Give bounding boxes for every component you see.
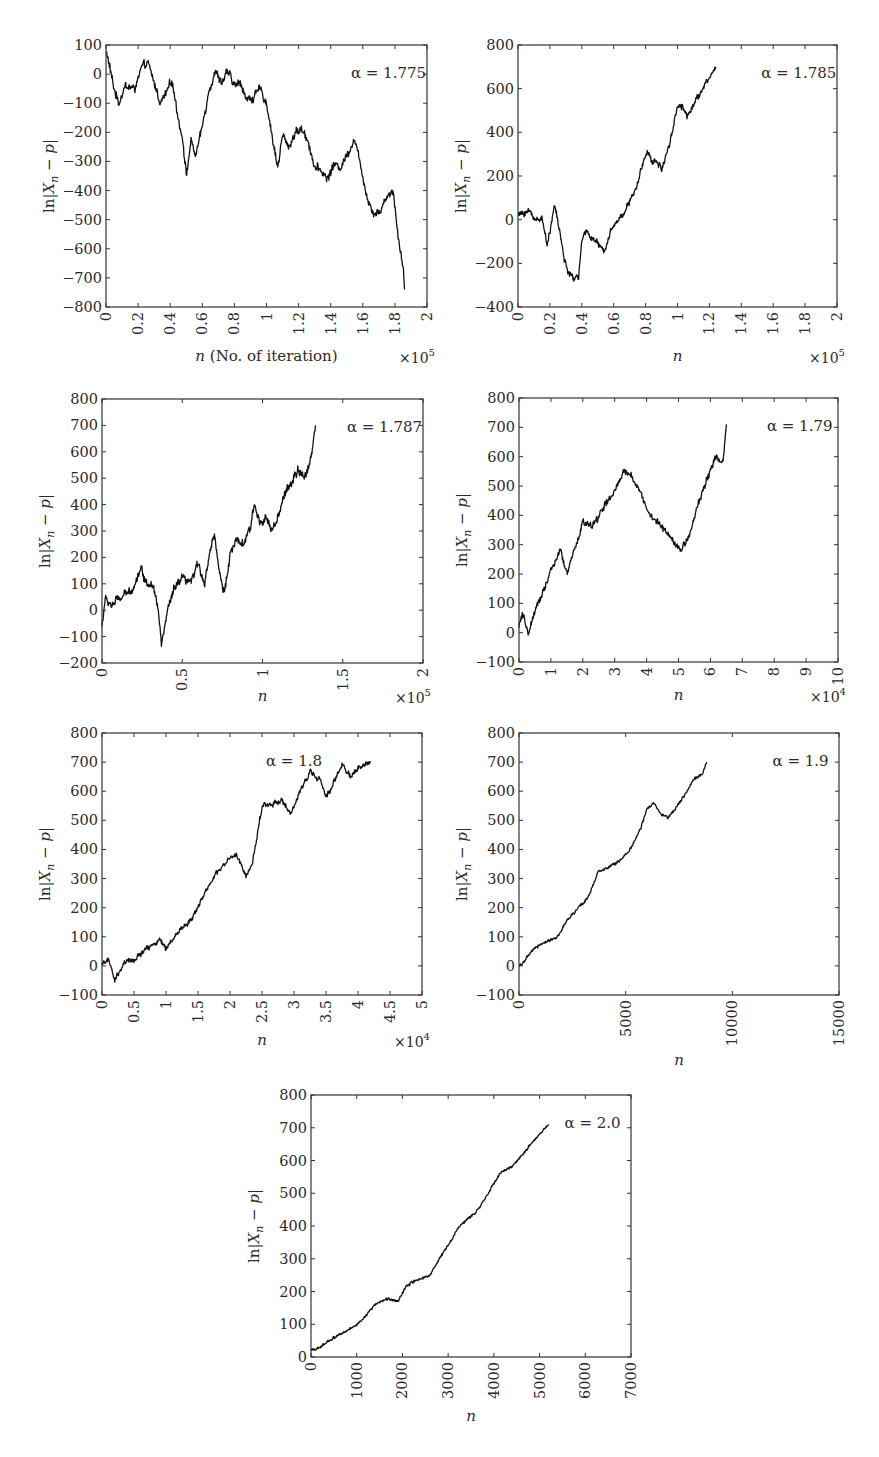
x-tick-label: 0.2: [130, 312, 146, 335]
x-tick-label: 0.4: [574, 312, 590, 335]
x-tick-label: 5000: [532, 1362, 548, 1399]
x-tick-label: 10: [830, 667, 846, 685]
x-axis-label: n: [673, 347, 683, 365]
y-tick-label: −100: [62, 95, 102, 111]
y-tick-label: 400: [70, 497, 98, 513]
y-axis-label: ln|Xn − p|: [36, 827, 57, 901]
y-tick-label: 700: [487, 419, 515, 435]
y-tick-label: 200: [487, 566, 515, 582]
x-tick-label: 2: [829, 312, 845, 321]
y-tick-label: −400: [474, 299, 514, 315]
y-tick-label: 500: [487, 478, 515, 494]
x-tick-label: 2: [415, 668, 431, 677]
x-tick-label: 0.6: [194, 312, 210, 335]
y-tick-label: 200: [279, 1284, 307, 1300]
y-tick-label: 600: [487, 449, 515, 465]
x-tick-label: 8: [766, 667, 782, 676]
x-tick-label: 0.8: [226, 312, 242, 335]
y-tick-label: 400: [70, 841, 98, 857]
x-tick-label: 0.2: [542, 312, 558, 335]
panel-alpha-1-79: −100010020030040050060070080001234567891…: [453, 390, 846, 705]
x-tick-label: 3: [286, 1000, 302, 1009]
x-tick-label: 2000: [394, 1362, 410, 1399]
y-tick-label: 800: [487, 390, 515, 406]
x-axis-label: n: [258, 687, 268, 705]
alpha-annotation: α = 1.9: [773, 752, 829, 770]
series-line: [518, 67, 716, 281]
x-tick-label: 1.6: [765, 312, 781, 335]
y-tick-label: −600: [62, 241, 102, 257]
y-tick-label: 400: [487, 841, 515, 857]
y-tick-label: 600: [487, 783, 515, 799]
x-tick-label: 1: [255, 668, 271, 677]
y-tick-label: −800: [62, 299, 102, 315]
x-tick-label: 7000: [623, 1362, 639, 1399]
x-tick-label: 7: [734, 667, 750, 676]
x-tick-label: 6000: [577, 1362, 593, 1399]
y-tick-label: 600: [70, 783, 98, 799]
x-axis-label: n: [674, 686, 684, 704]
series-line: [102, 425, 315, 646]
x-axis-label: n: [466, 1407, 476, 1425]
x-tick-label: 0: [94, 1000, 110, 1009]
series-line: [519, 762, 707, 966]
x-multiplier-label: ×105: [809, 347, 845, 366]
y-tick-label: 700: [70, 417, 98, 433]
y-tick-label: 600: [279, 1153, 307, 1169]
y-tick-label: 0: [505, 212, 514, 228]
y-tick-label: 300: [487, 871, 515, 887]
x-tick-label: 0: [511, 667, 527, 676]
x-tick-label: 2: [575, 667, 591, 676]
plot-frame: [102, 733, 422, 995]
series-line: [311, 1124, 549, 1350]
y-tick-label: −100: [475, 987, 515, 1003]
x-tick-label: 0.4: [162, 312, 178, 335]
y-tick-label: 100: [487, 595, 515, 611]
y-axis-label: ln|Xn − p|: [245, 1189, 266, 1263]
x-axis-label: n: [674, 1051, 684, 1069]
panel-alpha-1-775: −800−700−600−500−400−300−200−100010000.2…: [40, 37, 435, 366]
y-tick-label: 400: [279, 1218, 307, 1234]
x-tick-label: 0.6: [606, 312, 622, 335]
x-tick-label: 0: [303, 1362, 319, 1371]
y-tick-label: 300: [70, 871, 98, 887]
x-tick-label: 4.5: [382, 1000, 398, 1023]
y-tick-label: 500: [70, 812, 98, 828]
y-tick-label: 200: [70, 900, 98, 916]
x-multiplier-label: ×105: [399, 347, 435, 366]
x-tick-label: 1: [259, 312, 275, 321]
x-tick-label: 0: [94, 668, 110, 677]
x-multiplier-label: ×104: [810, 686, 846, 705]
y-tick-label: 700: [70, 754, 98, 770]
panel-alpha-1-9: −100010020030040050060070080005000100001…: [453, 725, 847, 1069]
y-tick-label: 800: [487, 725, 515, 741]
series-line: [106, 52, 405, 290]
x-tick-label: 4: [350, 1000, 366, 1009]
x-tick-label: 1.5: [335, 668, 351, 691]
y-tick-label: 0: [89, 602, 98, 618]
y-tick-label: −500: [62, 212, 102, 228]
y-tick-label: 200: [70, 549, 98, 565]
y-tick-label: 800: [279, 1087, 307, 1103]
y-tick-label: −200: [474, 255, 514, 271]
panel-alpha-1-787: −200−100010020030040050060070080000.511.…: [36, 391, 431, 706]
y-tick-label: 0: [506, 958, 515, 974]
x-tick-label: 1.8: [387, 312, 403, 335]
x-tick-label: 5: [414, 1000, 430, 1009]
y-tick-label: 600: [70, 444, 98, 460]
y-tick-label: 700: [279, 1120, 307, 1136]
x-tick-label: 5: [671, 667, 687, 676]
y-tick-label: −200: [58, 655, 98, 671]
y-tick-label: −200: [62, 124, 102, 140]
x-tick-label: 1.5: [190, 1000, 206, 1023]
y-tick-label: 500: [279, 1185, 307, 1201]
alpha-annotation: α = 1.785: [761, 64, 836, 82]
x-tick-label: 15000: [831, 1000, 847, 1046]
x-tick-label: 6: [702, 667, 718, 676]
y-tick-label: 800: [70, 725, 98, 741]
y-tick-label: 400: [486, 124, 514, 140]
y-tick-label: 600: [486, 81, 514, 97]
x-tick-label: 1000: [349, 1362, 365, 1399]
plot-frame: [102, 399, 423, 663]
y-tick-label: 100: [279, 1316, 307, 1332]
